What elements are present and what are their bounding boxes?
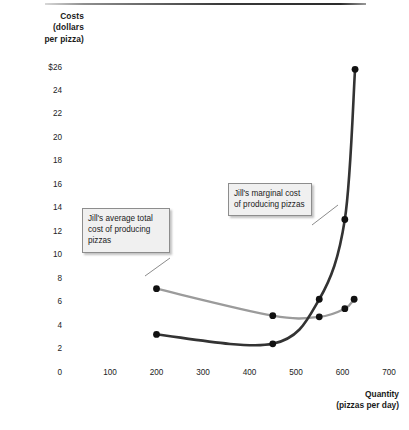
data-point-marker <box>153 285 160 292</box>
data-point-marker <box>269 340 276 347</box>
plot-area <box>0 0 409 430</box>
data-point-marker <box>269 312 276 319</box>
data-point-marker <box>341 305 348 312</box>
callout-average-total-cost: Jill's average total cost of producing p… <box>82 208 170 253</box>
data-point-marker <box>351 296 358 303</box>
cost-curves-figure: Costs (dollars per pizza) Quantity (pizz… <box>0 0 409 430</box>
data-point-marker <box>316 313 323 320</box>
data-point-marker <box>341 216 348 223</box>
data-point-marker <box>352 66 359 73</box>
callout-marginal-cost: Jill's marginal cost of producing pizzas <box>228 183 312 216</box>
data-point-marker <box>153 331 160 338</box>
average-total-cost-curve <box>157 289 355 319</box>
data-point-marker <box>316 296 323 303</box>
